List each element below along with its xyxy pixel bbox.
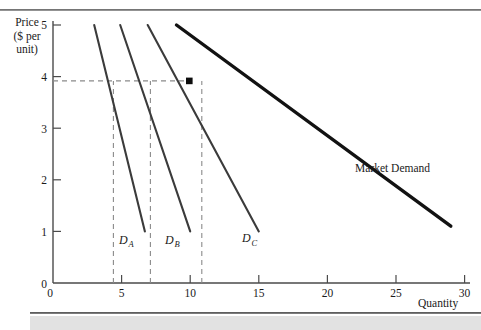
x-tick-label-30: 30	[459, 287, 471, 299]
x-tick-label-20: 20	[322, 287, 334, 299]
curve-label-a-sub: A	[128, 239, 135, 249]
x-axis-tick-labels: 0 5 10 15 20 25 30	[47, 287, 470, 299]
curve-demand-b	[120, 25, 190, 231]
y-tick-label-5: 5	[41, 19, 47, 31]
y-axis-ticks	[53, 25, 61, 231]
curve-label-market-demand: Market Demand	[355, 162, 430, 174]
bottom-gray-band	[30, 316, 481, 330]
equilibrium-point-marker	[186, 78, 193, 85]
curve-label-c-main: D	[241, 231, 251, 245]
curve-demand-c	[148, 25, 259, 231]
y-axis-tick-labels: 0 1 2 3 4 5	[41, 19, 47, 289]
y-tick-label-3: 3	[41, 123, 47, 135]
x-tick-label-15: 15	[253, 287, 265, 299]
curve-market-demand	[177, 25, 451, 226]
figure-root: Price ($ per unit) 0 1 2 3 4 5	[0, 0, 481, 330]
curve-demand-a	[94, 25, 145, 231]
bottom-divider-rule	[30, 312, 481, 314]
curve-label-b-main: D	[164, 233, 174, 247]
curve-label-a: D A	[118, 233, 135, 250]
curve-label-a-main: D	[118, 233, 128, 247]
y-tick-label-1: 1	[41, 226, 47, 238]
x-tick-label-0: 0	[47, 287, 53, 299]
y-tick-label-4: 4	[41, 71, 47, 83]
curve-label-b: D B	[164, 233, 180, 250]
y-tick-label-2: 2	[41, 174, 47, 186]
curve-label-c-sub: C	[252, 238, 258, 248]
x-tick-label-5: 5	[119, 287, 125, 299]
demand-curve-chart: 0 1 2 3 4 5 0 5 10 15 20 25 30	[0, 0, 481, 330]
x-tick-label-25: 25	[390, 287, 402, 299]
x-axis-ticks	[122, 275, 465, 283]
x-axis-title: Quantity	[418, 297, 458, 310]
x-tick-label-10: 10	[184, 287, 196, 299]
curve-label-b-sub: B	[175, 239, 180, 249]
curve-label-c: D C	[241, 231, 258, 248]
